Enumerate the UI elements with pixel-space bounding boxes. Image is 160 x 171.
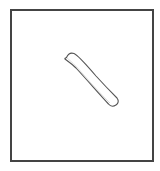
sketch-canvas: [0, 0, 160, 171]
inner-sketch-line: [67, 58, 110, 103]
rotated-rounded-rectangle: [65, 53, 118, 106]
